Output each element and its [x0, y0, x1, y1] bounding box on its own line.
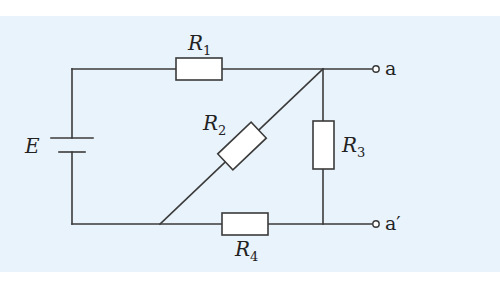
- resistor-r2-label: R2: [202, 111, 226, 138]
- resistor-r3-body: [313, 121, 334, 169]
- terminal-a-label: a: [385, 57, 396, 79]
- terminal-a: a: [373, 57, 397, 79]
- terminal-a-circle: [373, 66, 379, 72]
- resistor-r1-label: R1: [187, 31, 211, 58]
- battery-e: E: [24, 134, 93, 158]
- resistor-r4: R4: [222, 213, 268, 264]
- battery-label: E: [24, 134, 40, 158]
- terminal-a-prime-circle: [373, 221, 379, 227]
- terminal-a-prime: a′: [373, 212, 401, 234]
- circuit-diagram: E R1 R2 R3 R4 a a′: [0, 0, 500, 287]
- resistor-r1-body: [176, 58, 222, 80]
- resistor-r4-label: R4: [234, 237, 258, 264]
- resistor-r3: R3: [313, 121, 365, 169]
- resistor-r2: R2: [202, 111, 266, 170]
- resistor-r4-body: [222, 213, 268, 235]
- resistor-r1: R1: [176, 31, 222, 80]
- terminal-a-prime-label: a′: [385, 212, 401, 234]
- resistor-r3-label: R3: [341, 133, 365, 160]
